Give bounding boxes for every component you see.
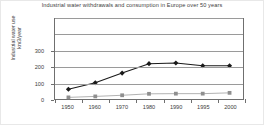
- data-point-marker: [146, 61, 151, 66]
- data-point-marker: [228, 91, 232, 95]
- x-tick-label: 1990: [161, 104, 191, 110]
- data-point-marker: [201, 92, 205, 96]
- gridline: [55, 51, 243, 52]
- y-tick-label: 0: [22, 97, 44, 103]
- x-tick-mark: [136, 99, 137, 103]
- y-tick-label: 100: [22, 81, 44, 87]
- y-tick-label: 200: [22, 64, 44, 70]
- series-layer: [55, 18, 243, 99]
- y-tick-label: 300: [22, 48, 44, 54]
- x-tick-mark: [245, 99, 246, 103]
- x-tick-mark: [191, 99, 192, 103]
- x-tick-mark: [82, 99, 83, 103]
- data-point-marker: [93, 95, 97, 99]
- data-point-marker: [174, 92, 178, 96]
- x-tick-mark: [218, 99, 219, 103]
- gridline: [55, 34, 243, 35]
- data-point-marker: [66, 87, 71, 92]
- x-tick-label: 1970: [107, 104, 137, 110]
- x-tick-label: 2000: [215, 104, 245, 110]
- data-point-marker: [67, 96, 71, 100]
- data-point-marker: [120, 93, 124, 97]
- gridline: [55, 18, 243, 19]
- x-tick-label: 1995: [188, 104, 218, 110]
- y-axis-ticks: 0100200300: [0, 0, 54, 125]
- data-point-marker: [147, 92, 151, 96]
- gridline: [55, 67, 243, 68]
- x-tick-mark: [109, 99, 110, 103]
- y-tick-mark: [51, 100, 54, 101]
- data-point-marker: [120, 71, 125, 76]
- chart-container: Industrial water withdrawals and consump…: [0, 0, 264, 125]
- gridline: [55, 84, 243, 85]
- x-tick-label: 1980: [134, 104, 164, 110]
- x-tick-mark: [164, 99, 165, 103]
- x-tick-mark: [55, 99, 56, 103]
- data-point-marker: [173, 60, 178, 65]
- x-tick-label: 1960: [80, 104, 110, 110]
- x-tick-label: 1950: [53, 104, 83, 110]
- plot-area: [54, 18, 244, 100]
